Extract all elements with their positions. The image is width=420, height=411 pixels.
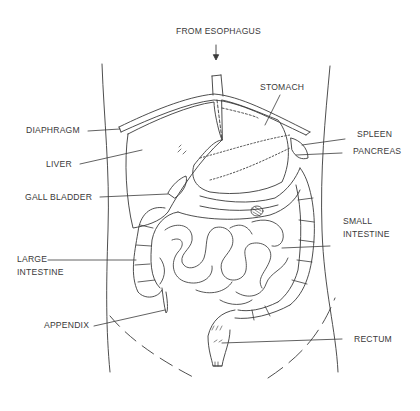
liver	[126, 102, 222, 228]
small-intestine	[160, 220, 288, 304]
label-pancreas: PANCREAS	[353, 145, 401, 158]
gall-bladder	[168, 145, 187, 198]
spleen	[291, 138, 308, 159]
label-appendix: APPENDIX	[44, 319, 89, 332]
label-from-esophagus: FROM ESOPHAGUS	[176, 25, 261, 38]
label-large-intestine: LARGE INTESTINE	[17, 253, 64, 279]
label-gall-bladder: GALL BLADDER	[25, 191, 92, 204]
diaphragm	[119, 94, 310, 135]
large-intestine	[133, 168, 314, 320]
label-small-intestine: SMALL INTESTINE	[343, 215, 390, 241]
diagram-artwork	[0, 0, 420, 411]
stomach	[193, 100, 290, 194]
digestive-system-diagram: FROM ESOPHAGUS STOMACH DIAPHRAGM SPLEEN …	[0, 0, 420, 411]
label-stomach: STOMACH	[260, 81, 304, 94]
label-rectum: RECTUM	[354, 333, 392, 346]
label-spleen: SPLEEN	[357, 128, 392, 141]
label-liver: LIVER	[46, 158, 72, 171]
esophagus-arrow-icon	[214, 45, 219, 60]
body-outline	[102, 64, 338, 378]
label-diaphragm: DIAPHRAGM	[26, 124, 80, 137]
rectum	[208, 310, 235, 366]
appendix	[162, 288, 168, 313]
esophagus	[212, 75, 223, 96]
